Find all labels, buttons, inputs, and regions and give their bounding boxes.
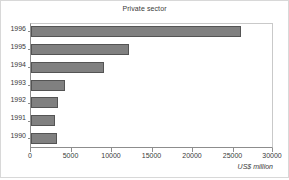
- x-tick-label: 20000: [182, 152, 201, 159]
- y-tick-label: 1991: [10, 114, 26, 121]
- bar-row: 1992: [31, 94, 273, 112]
- bar-1994[interactable]: [31, 62, 104, 73]
- x-axis-title: US$ million: [238, 163, 273, 170]
- bar-1993[interactable]: [31, 80, 65, 91]
- bar-1995[interactable]: [31, 44, 129, 55]
- bar-row: 1996: [31, 23, 273, 41]
- bar-row: 1995: [31, 41, 273, 59]
- chart-figure: Private sector 1996 1995 1994 1993 1992: [0, 0, 289, 180]
- bar-1990[interactable]: [31, 133, 57, 144]
- bar-row: 1990: [31, 130, 273, 148]
- x-tick-label: 5000: [63, 152, 79, 159]
- y-tick-label: 1992: [10, 96, 26, 103]
- bar-1991[interactable]: [31, 115, 55, 126]
- x-tick-label: 0: [28, 152, 32, 159]
- bar-1996[interactable]: [31, 26, 241, 37]
- y-tick-label: 1995: [10, 43, 26, 50]
- x-axis-tick-labels: 0 5000 10000 15000 20000 25000 30000: [30, 152, 273, 164]
- bar-1992[interactable]: [31, 97, 58, 108]
- y-tick-label: 1993: [10, 79, 26, 86]
- y-tick-label: 1994: [10, 61, 26, 68]
- bar-series: 1996 1995 1994 1993 1992 1991: [31, 23, 273, 148]
- x-tick-label: 10000: [101, 152, 120, 159]
- chart-title: Private sector: [0, 5, 289, 12]
- bar-row: 1991: [31, 112, 273, 130]
- y-tick-label: 1990: [10, 132, 26, 139]
- bar-row: 1993: [31, 77, 273, 95]
- y-tick-label: 1996: [10, 25, 26, 32]
- x-tick-label: 25000: [223, 152, 242, 159]
- bar-row: 1994: [31, 59, 273, 77]
- x-tick-label: 30000: [262, 152, 281, 159]
- x-tick-label: 15000: [142, 152, 161, 159]
